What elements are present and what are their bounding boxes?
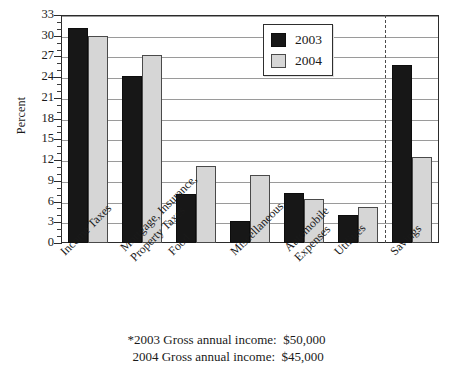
y-axis-tick-label: 21: [24, 91, 54, 104]
y-axis-tick-label: 18: [24, 112, 54, 125]
y-axis-tick-label: 12: [24, 153, 54, 166]
y-axis-tick-label: 15: [24, 132, 54, 145]
y-axis-tick-label: 9: [24, 174, 54, 187]
bar-2004-food: [196, 166, 216, 243]
y-axis-tick-label: 24: [24, 70, 54, 83]
dark-square-swatch-icon: [271, 33, 286, 47]
legend-item-2003: 2003: [271, 29, 322, 50]
y-axis-tick-label: 3: [24, 215, 54, 228]
legend-label-2004: 2004: [295, 54, 322, 68]
y-axis-tick-label: 33: [24, 8, 54, 21]
bar-2003-savings: [392, 65, 412, 243]
footnote-2003: *2003 Gross annual income: $50,000: [0, 331, 453, 348]
y-axis-tick-label: 27: [24, 49, 54, 62]
legend-item-2004: 2004: [271, 50, 322, 71]
bar-2003-income-taxes: [68, 28, 88, 243]
savings-divider-line: [385, 15, 386, 243]
bar-2003-mortgage-insurance-property-taxes: [122, 76, 142, 243]
legend-label-2003: 2003: [295, 33, 322, 47]
y-axis-tick-label: 6: [24, 195, 54, 208]
light-square-swatch-icon: [271, 54, 286, 68]
legend: 2003 2004: [263, 24, 333, 76]
x-axis-labels: Income TaxesMortgage, Insurance,Property…: [0, 243, 453, 333]
footnotes: *2003 Gross annual income: $50,000 2004 …: [0, 331, 453, 365]
y-axis-tick-label: 30: [24, 29, 54, 42]
bar-chart: Percent 03691215182124273033 2003 2004 I…: [0, 0, 453, 371]
bars-layer: [61, 15, 439, 243]
footnote-2004: 2004 Gross annual income: $45,000: [0, 348, 453, 365]
